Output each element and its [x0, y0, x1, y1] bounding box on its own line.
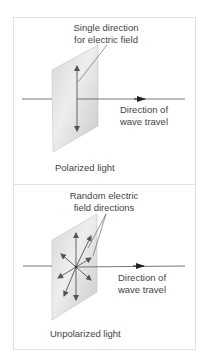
- annotation-line-2: field directions: [62, 202, 146, 214]
- direction-line-1: Direction of: [114, 104, 174, 116]
- direction-line-2: wave travel: [112, 284, 172, 296]
- direction-line-2: wave travel: [114, 116, 174, 128]
- annotation-label: Random electric field directions: [62, 190, 146, 214]
- annotation-label: Single direction for electric field: [66, 22, 146, 46]
- direction-line-1: Direction of: [112, 272, 172, 284]
- unpolarized-panel: [23, 214, 185, 320]
- annotation-line-1: Single direction: [66, 22, 146, 34]
- annotation-line-2: for electric field: [66, 34, 146, 46]
- diagram-graphics: [0, 0, 206, 358]
- polarized-panel: [22, 45, 185, 152]
- annotation-line-1: Random electric: [62, 190, 146, 202]
- direction-label: Direction of wave travel: [112, 272, 172, 296]
- direction-label: Direction of wave travel: [114, 104, 174, 128]
- caption-polarized: Polarized light: [55, 162, 115, 174]
- caption-unpolarized: Unpolarized light: [50, 328, 121, 340]
- polarizer-plate: [52, 45, 98, 152]
